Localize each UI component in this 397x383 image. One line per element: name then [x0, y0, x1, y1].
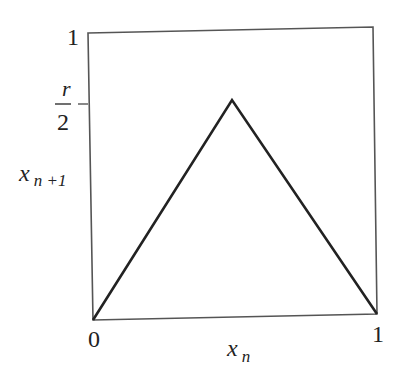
- x-axis-label: x n: [226, 335, 250, 366]
- y-tick-label-2: 2: [57, 109, 69, 135]
- x-tick-label-0: 0: [88, 326, 100, 352]
- tent-map-curve: [93, 100, 377, 320]
- plot-frame: [88, 27, 377, 320]
- y-tick-label-1: 1: [67, 24, 79, 50]
- y-tick-label-r: r: [62, 76, 71, 101]
- x-tick-label-1: 1: [372, 321, 384, 347]
- tent-map-diagram: 1 r 2 x n +1 0 1 x n: [0, 0, 397, 383]
- y-axis-label: x n +1: [18, 160, 66, 190]
